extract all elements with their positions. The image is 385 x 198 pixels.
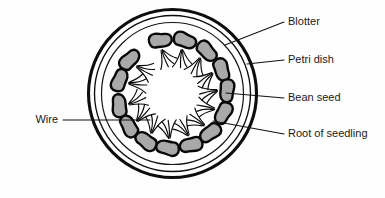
label-bean-seed: Bean seed bbox=[288, 91, 341, 103]
label-blotter: Blotter bbox=[288, 15, 320, 27]
label-petri-dish: Petri dish bbox=[288, 53, 334, 65]
petri-dish-diagram: BlotterPetri dishBean seedRoot of seedli… bbox=[0, 0, 385, 198]
label-wire: Wire bbox=[35, 113, 58, 125]
seed-shape bbox=[220, 79, 236, 103]
figure-container: BlotterPetri dishBean seedRoot of seedli… bbox=[0, 0, 385, 198]
leader-line-blotter bbox=[225, 22, 284, 45]
label-root-of-seedling: Root of seedling bbox=[288, 127, 368, 139]
leader-line-petri-dish bbox=[247, 60, 284, 64]
